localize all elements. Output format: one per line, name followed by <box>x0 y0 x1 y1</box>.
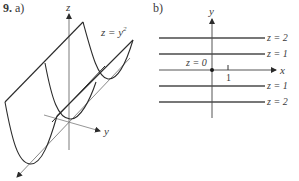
y-axis <box>44 115 100 131</box>
figure-canvas <box>0 0 299 181</box>
problem-heading: 9. a) <box>3 2 24 14</box>
parabola-middle <box>45 63 96 119</box>
a-y-axis-label: y <box>104 126 109 137</box>
part-a-label: a) <box>15 1 24 15</box>
surface-equation-label: z = y2 <box>101 26 127 38</box>
x-tick-label: 1 <box>226 73 231 83</box>
level-label-z1-bottom: z = 1 <box>267 81 288 91</box>
b-y-axis-label: y <box>209 6 214 17</box>
a-z-axis-label: z <box>66 2 70 13</box>
x-axis <box>17 58 130 177</box>
part-a-surface-plot <box>5 14 133 177</box>
level-label-z2-bottom: z = 2 <box>267 97 288 107</box>
origin-point <box>210 68 214 72</box>
origin-level-label: z = 0 <box>186 58 207 68</box>
part-b-label: b) <box>153 2 163 14</box>
part-b-level-curves <box>159 19 276 118</box>
surface-right-rim-2 <box>52 66 105 122</box>
b-x-axis-label: x <box>280 65 285 76</box>
surface-left-rim <box>5 22 83 102</box>
level-label-z1-top: z = 1 <box>267 49 288 59</box>
problem-number: 9. <box>3 1 12 15</box>
parabola-front <box>5 102 57 164</box>
level-label-z2-top: z = 2 <box>267 33 288 43</box>
